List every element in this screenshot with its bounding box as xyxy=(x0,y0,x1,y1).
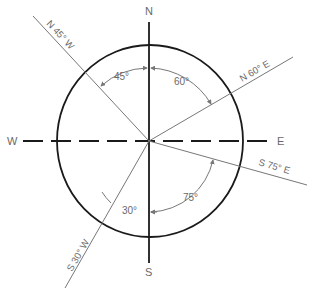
angle-label-45: 45° xyxy=(114,71,129,82)
label-north: N xyxy=(145,5,153,17)
angle-label-30: 30° xyxy=(122,205,137,216)
compass-diagram: N S E W N 45° W N 60° E S 75° E S 30° W … xyxy=(0,0,314,297)
label-s30w: S 30° W xyxy=(64,237,91,273)
angle-label-60: 60° xyxy=(174,76,189,87)
bearing-line-n45w xyxy=(33,16,149,141)
angle-arc-75 xyxy=(151,160,213,212)
bearing-line-n60e xyxy=(149,57,293,141)
label-west: W xyxy=(7,135,18,147)
label-east: E xyxy=(277,135,284,147)
label-south: S xyxy=(145,266,152,278)
angle-arc-30 xyxy=(102,192,111,203)
angle-label-75: 75° xyxy=(183,192,198,203)
